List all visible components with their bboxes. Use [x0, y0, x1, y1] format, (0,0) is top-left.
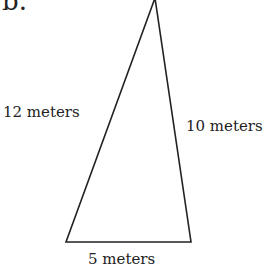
- right-side-label: 10 meters: [186, 117, 263, 135]
- triangle-figure: b. 12 meters 10 meters 5 meters: [0, 0, 280, 269]
- bottom-side-label: 5 meters: [88, 250, 155, 268]
- left-side-label: 12 meters: [3, 103, 80, 121]
